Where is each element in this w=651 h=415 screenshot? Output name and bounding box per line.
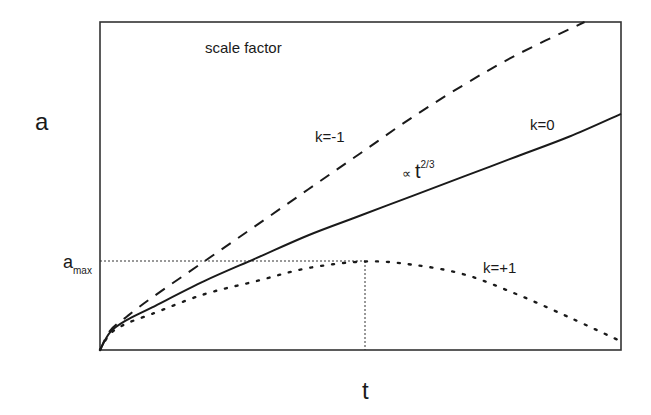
y-axis-label: a (35, 108, 49, 135)
label-k-positive: k=+1 (483, 259, 516, 276)
label-k-zero: k=0 (530, 116, 555, 133)
curve-k-positive (100, 261, 618, 350)
chart-title: scale factor (205, 39, 282, 56)
curve-k-zero (100, 114, 621, 350)
label-k-negative: k=-1 (315, 128, 345, 145)
x-axis-label: t (362, 377, 369, 404)
a-max-label: amax (63, 252, 92, 276)
plot-frame (100, 22, 621, 350)
proportional-annotation: ∝t2/3 (402, 159, 435, 182)
scale-factor-plot: scale factor a t amax k=-1 k=0 k=+1 ∝t2/… (0, 0, 651, 415)
curve-k-negative (100, 22, 585, 350)
